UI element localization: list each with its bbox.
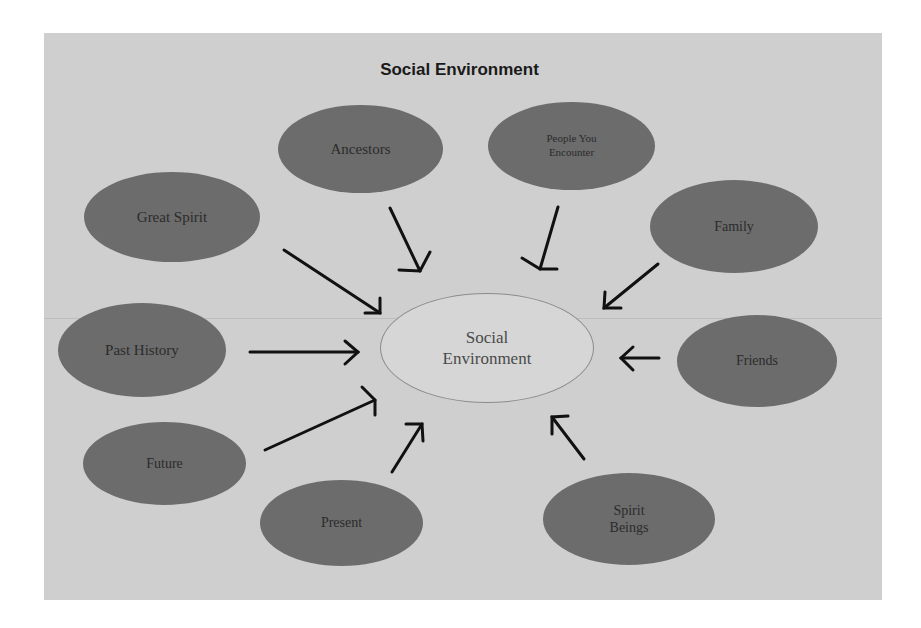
node-friends: Friends [677, 315, 837, 407]
arrow-spirit-beings [552, 416, 584, 459]
node-people-you-encounter: People You Encounter [488, 102, 655, 190]
arrow-family [604, 264, 658, 308]
arrow-past-history [250, 341, 358, 364]
node-spirit-beings: Spirit Beings [543, 473, 715, 565]
node-family: Family [650, 180, 818, 273]
arrow-present [392, 424, 423, 472]
arrow-ancestors [390, 208, 430, 271]
node-future: Future [83, 422, 246, 505]
node-ancestors: Ancestors [278, 105, 443, 193]
node-great-spirit: Great Spirit [84, 172, 260, 262]
node-social-environment: Social Environment [380, 293, 594, 403]
node-present: Present [260, 480, 423, 566]
arrow-friends [621, 347, 659, 370]
node-past-history: Past History [58, 303, 226, 397]
arrow-future [265, 387, 375, 450]
arrow-people-you-encounter [522, 207, 558, 269]
arrow-great-spirit [284, 250, 380, 313]
